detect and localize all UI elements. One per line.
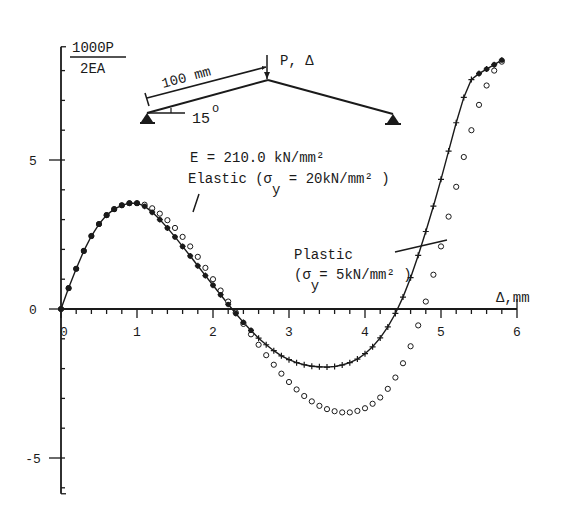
- elastic-leader-line: [193, 194, 199, 212]
- inset-angle-label: 15: [192, 111, 210, 128]
- y-tick-label: -5: [25, 452, 41, 467]
- elastic-marker: [294, 387, 299, 392]
- elastic-label: Elastic (σy = 20kN/mm² ): [188, 171, 390, 198]
- elastic-marker: [302, 393, 307, 398]
- elastic-marker: [127, 201, 132, 206]
- elastic-marker: [378, 395, 383, 400]
- elastic-marker: [58, 306, 63, 311]
- modulus-annotation: E = 210.0 kN/mm²: [190, 150, 324, 166]
- elastic-marker: [134, 201, 139, 206]
- elastic-marker: [317, 403, 322, 408]
- plastic-marker: [180, 244, 185, 249]
- x-tick-label: 2: [209, 325, 217, 340]
- plastic-marker: [248, 328, 253, 333]
- pin-support-right-icon: [387, 114, 399, 123]
- plastic-marker: [301, 362, 307, 368]
- elastic-marker: [438, 244, 443, 249]
- elastic-marker: [210, 277, 215, 282]
- plastic-marker: [203, 273, 208, 278]
- elastic-marker: [180, 234, 185, 239]
- plastic-marker: [476, 71, 481, 76]
- plastic-marker: [415, 252, 421, 258]
- elastic-marker: [385, 386, 390, 391]
- elastic-marker: [286, 379, 291, 384]
- plastic-marker: [324, 364, 330, 370]
- elastic-marker: [423, 299, 428, 304]
- elastic-marker: [203, 265, 208, 270]
- plastic-marker: [150, 210, 155, 215]
- plastic-marker: [492, 62, 497, 67]
- elastic-marker: [271, 362, 276, 367]
- elastic-marker: [96, 221, 101, 226]
- plastic-marker: [446, 148, 452, 154]
- y-tick-label: 5: [29, 154, 37, 169]
- elastic-marker: [256, 342, 261, 347]
- x-tick-label: 6: [513, 325, 521, 340]
- plastic-marker: [286, 357, 292, 363]
- plastic-marker: [309, 363, 315, 369]
- plastic-marker: [499, 58, 504, 63]
- axes: -5050123456: [25, 47, 521, 494]
- plastic-marker: [453, 120, 459, 126]
- chart-figure: -5050123456 1000P 2EA Δ,mm 100 mm 15 o P…: [0, 0, 567, 516]
- plastic-marker: [430, 203, 436, 209]
- plastic-marker: [423, 229, 429, 235]
- x-tick-label: 4: [361, 325, 369, 340]
- elastic-marker: [431, 272, 436, 277]
- elastic-marker: [104, 213, 109, 218]
- elastic-marker: [340, 410, 345, 415]
- plastic-marker: [332, 364, 338, 370]
- elastic-marker: [347, 410, 352, 415]
- elastic-marker: [476, 102, 481, 107]
- x-tick-label: 5: [437, 325, 445, 340]
- plastic-marker: [438, 176, 444, 182]
- elastic-marker: [195, 254, 200, 259]
- elastic-marker: [66, 286, 71, 291]
- inset-load-label: P, Δ: [280, 53, 314, 69]
- x-tick-label: 1: [133, 325, 141, 340]
- elastic-marker: [416, 323, 421, 328]
- data-series: [58, 57, 505, 415]
- elastic-marker: [279, 371, 284, 376]
- x-axis-label: Δ,mm: [496, 290, 530, 306]
- elastic-marker: [454, 184, 459, 189]
- elastic-marker: [309, 399, 314, 404]
- x-tick-label: 0: [60, 325, 68, 340]
- elastic-marker: [165, 218, 170, 223]
- plastic-marker: [392, 310, 398, 316]
- elastic-marker: [370, 401, 375, 406]
- elastic-marker: [393, 375, 398, 380]
- elastic-marker: [324, 407, 329, 412]
- plastic-marker: [241, 320, 246, 325]
- plastic-marker: [461, 94, 467, 100]
- elastic-marker: [264, 353, 269, 358]
- y-axis-label-denominator: 2EA: [80, 61, 106, 77]
- plastic-marker: [172, 234, 177, 239]
- plastic-marker: [188, 253, 193, 258]
- plastic-marker: [316, 364, 322, 370]
- elastic-marker: [188, 244, 193, 249]
- elastic-marker: [484, 83, 489, 88]
- plastic-marker: [195, 263, 200, 268]
- elastic-marker: [461, 154, 466, 159]
- elastic-marker: [492, 68, 497, 73]
- elastic-marker: [332, 409, 337, 414]
- y-axis-label-numerator: 1000P: [72, 40, 114, 56]
- elastic-marker: [469, 128, 474, 133]
- plastic-marker: [210, 283, 215, 288]
- elastic-marker: [446, 214, 451, 219]
- plastic-marker: [339, 362, 345, 368]
- elastic-marker: [172, 225, 177, 230]
- plastic-marker: [294, 360, 300, 366]
- plastic-curve: [61, 60, 502, 367]
- elastic-marker: [400, 361, 405, 366]
- elastic-marker: [119, 203, 124, 208]
- elastic-marker: [81, 248, 86, 253]
- plastic-label: Plastic: [294, 247, 353, 263]
- inset-truss-diagram: [140, 55, 401, 124]
- plastic-marker: [233, 311, 238, 316]
- inset-angle-degree: o: [212, 102, 219, 116]
- pin-support-left-icon: [141, 113, 153, 122]
- plastic-marker: [347, 360, 353, 366]
- plastic-marker: [165, 225, 170, 230]
